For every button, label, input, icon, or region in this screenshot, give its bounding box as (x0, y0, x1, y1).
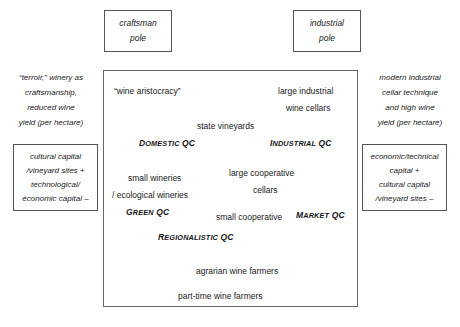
convention-market-qc-body: ARKET (303, 211, 329, 220)
right-desc-line-1: modern industrial (360, 70, 460, 85)
right-capital-line-1: economic/technical (370, 150, 438, 164)
convention-industrial-qc-tail: QC (316, 138, 332, 148)
right-side-description: modern industrial cellar technique and h… (360, 70, 460, 130)
actor-state-vineyards: state vineyards (197, 120, 254, 133)
craftsman-pole-box: craftsman pole (104, 10, 172, 52)
left-side-description: “terroir,” winery as craftsmanship, redu… (1, 70, 101, 130)
actor-agrarian-wine-farmers: agrarian wine farmers (196, 265, 278, 278)
actor-part-time-wine-farmers: part-time wine farmers (178, 290, 263, 303)
convention-green-qc-body: REEN (133, 208, 154, 217)
convention-industrial-qc-body: NDUSTRIAL (273, 139, 317, 148)
left-capital-line-4: economic capital – (22, 192, 88, 206)
industrial-pole-line2: pole (319, 31, 335, 46)
left-capital-line-2: /vineyard sites + (26, 164, 84, 178)
convention-domestic-qc-body: OMESTIC (145, 139, 179, 148)
right-capital-line-3: cultural capital (379, 178, 430, 192)
right-capital-line-4: /vineyard sites – (376, 192, 434, 206)
convention-regionalistic-qc-tail: QC (218, 232, 234, 242)
right-capital-box: economic/technical capital + cultural ca… (362, 144, 447, 211)
actor-large-cooperative-cellars-line1: large cooperative (229, 167, 294, 180)
actor-small-wineries: small wineries (128, 172, 181, 185)
convention-regionalistic-qc: REGIONALISTIC QC (158, 232, 234, 242)
industrial-pole-box: industrial pole (293, 10, 361, 52)
industrial-pole-line1: industrial (310, 16, 344, 31)
craftsman-pole-line2: pole (130, 31, 146, 46)
left-capital-box: cultural capital /vineyard sites + techn… (13, 144, 98, 211)
convention-regionalistic-qc-body: EGIONALISTIC (164, 233, 218, 242)
convention-industrial-qc: INDUSTRIAL QC (270, 138, 332, 148)
actor-ecological-wineries: / ecological wineries (112, 189, 188, 202)
craftsman-pole-line1: craftsman (119, 16, 156, 31)
convention-domestic-qc-tail: QC (180, 138, 196, 148)
actor-small-cooperative: small cooperative (216, 211, 282, 224)
left-capital-line-1: cultural capital (30, 150, 81, 164)
actor-large-industrial-wine-cellars-line2: wine cellars (286, 102, 330, 115)
left-desc-line-2: craftsmanship, (1, 85, 101, 100)
convention-green-qc-tail: QC (154, 207, 170, 217)
left-desc-line-3: reduced wine (1, 100, 101, 115)
right-capital-line-2: capital + (389, 164, 419, 178)
left-desc-line-1: “terroir,” winery as (1, 70, 101, 85)
actor-large-cooperative-cellars-line2: cellars (253, 184, 278, 197)
convention-market-qc-tail: QC (329, 210, 345, 220)
convention-green-qc: GREEN QC (126, 207, 169, 217)
right-desc-line-3: and high wine (360, 100, 460, 115)
actor-large-industrial-wine-cellars-line1: large industrial (278, 85, 333, 98)
right-desc-line-4: yield (per hectare) (360, 115, 460, 130)
convention-domestic-qc: DOMESTIC QC (139, 138, 195, 148)
right-desc-line-2: cellar technique (360, 85, 460, 100)
actor-wine-aristocracy: “wine aristocracy” (114, 85, 181, 98)
diagram-canvas: craftsman pole industrial pole “terroir,… (0, 0, 460, 327)
convention-market-qc: MARKET QC (296, 210, 345, 220)
left-capital-line-3: technological/ (31, 178, 80, 192)
convention-green-qc-initial: G (126, 207, 133, 217)
left-desc-line-4: yield (per hectare) (1, 115, 101, 130)
